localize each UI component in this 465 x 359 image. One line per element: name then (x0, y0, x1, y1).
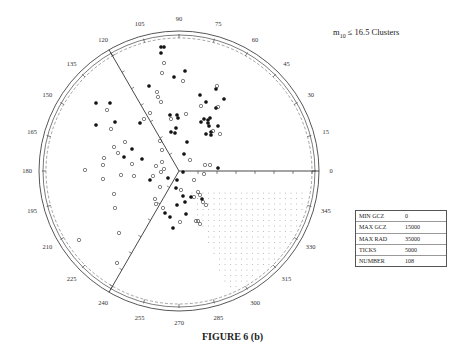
open-point (156, 95, 159, 98)
open-point (148, 111, 151, 114)
open-point (208, 163, 211, 166)
angle-label: 195 (27, 207, 37, 214)
open-point (161, 206, 164, 209)
legend-box: MIN GCZ0 MAX GCZ15000 MAX RAD35000 TICKS… (355, 210, 447, 267)
open-point (130, 162, 133, 165)
open-point (101, 177, 104, 180)
open-point (159, 100, 162, 103)
radial-axes (109, 50, 319, 292)
open-point (179, 188, 182, 191)
open-point (123, 140, 126, 143)
filled-point (222, 97, 225, 100)
legend-row-max-rad: MAX RAD35000 (356, 233, 446, 244)
open-point (202, 172, 205, 175)
open-point (169, 117, 172, 120)
open-point (158, 185, 161, 188)
open-point (113, 206, 116, 209)
open-point (151, 174, 154, 177)
open-point (215, 84, 218, 87)
filled-point (94, 101, 97, 104)
angle-label: 240 (98, 299, 108, 306)
filled-point (175, 113, 178, 116)
open-point (160, 160, 163, 163)
filled-point (216, 166, 219, 169)
open-point (83, 168, 86, 171)
open-point (115, 261, 118, 264)
filled-point (204, 132, 207, 135)
angle-label: 255 (135, 314, 145, 321)
filled-point (185, 140, 188, 143)
open-point (162, 61, 165, 64)
polar-plot: 0153045607590105120135150165180195210225… (0, 0, 465, 359)
open-point (204, 203, 207, 206)
open-point (181, 79, 184, 82)
angle-label: 210 (42, 243, 52, 250)
angle-label: 90 (176, 15, 183, 22)
open-point (116, 151, 119, 154)
filled-point (206, 118, 209, 121)
filled-point (182, 152, 185, 155)
filled-point (113, 120, 116, 123)
filled-point (171, 226, 174, 229)
angle-label: 75 (215, 20, 222, 27)
open-point (153, 197, 156, 200)
open-point (77, 238, 80, 241)
filled-point (207, 124, 210, 127)
filled-point (199, 120, 202, 123)
data-points (77, 45, 225, 264)
chart-title: m10 ≤ 16.5 Clusters (333, 27, 399, 39)
filled-point (181, 170, 184, 173)
filled-point (166, 176, 169, 179)
angle-label: 150 (42, 91, 52, 98)
filled-point (174, 126, 177, 129)
filled-point (183, 69, 186, 72)
filled-point (168, 113, 171, 116)
open-point (109, 127, 112, 130)
filled-point (108, 101, 111, 104)
filled-point (181, 194, 184, 197)
legend-row-number: NUMBER108 (356, 255, 446, 266)
shaded-region (192, 193, 303, 287)
open-point (154, 202, 157, 205)
angle-label: 60 (252, 36, 259, 43)
open-point (112, 145, 115, 148)
filled-point (216, 124, 219, 127)
angle-label: 105 (135, 20, 145, 27)
filled-point (162, 45, 165, 48)
open-point (162, 167, 165, 170)
open-point (199, 104, 202, 107)
open-point (119, 173, 122, 176)
angle-label: 315 (282, 275, 292, 282)
open-point (178, 220, 181, 223)
open-point (184, 112, 187, 115)
open-point (196, 190, 199, 193)
angle-label: 15 (323, 128, 330, 135)
filled-point (173, 131, 176, 134)
angle-label: 225 (67, 275, 77, 282)
open-point (201, 200, 204, 203)
legend-row-max-gcz: MAX GCZ15000 (356, 221, 446, 232)
filled-point (122, 155, 125, 158)
open-point (192, 178, 195, 181)
open-point (112, 192, 115, 195)
filled-point (159, 51, 162, 54)
filled-point (184, 212, 187, 215)
angle-label: 165 (27, 128, 37, 135)
open-point (188, 158, 191, 161)
filled-point (209, 133, 212, 136)
filled-point (130, 147, 133, 150)
filled-point (172, 75, 175, 78)
angle-label: 120 (98, 36, 108, 43)
open-point (159, 170, 162, 173)
angle-label: 330 (306, 243, 316, 250)
open-point (101, 163, 104, 166)
angle-label: 0 (329, 167, 332, 174)
filled-point (204, 100, 207, 103)
filled-point (163, 211, 166, 214)
filled-point (202, 117, 205, 120)
open-point (155, 90, 158, 93)
filled-point (198, 93, 201, 96)
open-point (102, 156, 105, 159)
open-point (160, 71, 163, 74)
filled-point (147, 84, 150, 87)
